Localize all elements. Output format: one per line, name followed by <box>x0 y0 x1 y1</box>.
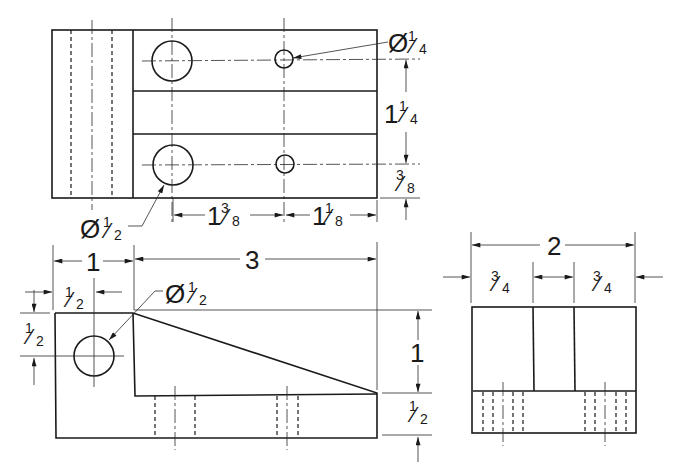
svg-text:2: 2 <box>199 292 207 308</box>
dim-base-height: 1 ⁄ 2 <box>407 398 428 427</box>
top-view: Ø 1 ⁄ 4 1 1 ⁄ 4 3 ⁄ 8 Ø 1 ⁄ 2 <box>52 18 427 244</box>
leader-front-hole <box>109 291 163 340</box>
leader-small-hole <box>293 42 388 58</box>
dim-hole-edge-offset: 3 ⁄ 8 <box>394 167 415 196</box>
diameter-symbol: Ø <box>388 28 408 58</box>
dim-front-hole: Ø 1 ⁄ 2 <box>165 279 207 309</box>
top-view-outline <box>52 30 377 198</box>
dim-hole-x: 1 ⁄ 2 <box>63 284 84 312</box>
svg-text:2: 2 <box>36 333 44 349</box>
svg-text:Ø: Ø <box>165 279 185 309</box>
svg-text:4: 4 <box>502 280 510 296</box>
svg-text:4: 4 <box>410 111 418 127</box>
front-view: 1 3 1 ⁄ 2 1 ⁄ 2 Ø 1 ⁄ 2 1 <box>20 242 432 462</box>
svg-text:Ø: Ø <box>80 214 100 244</box>
technical-drawing: Ø 1 ⁄ 4 1 1 ⁄ 4 3 ⁄ 8 Ø 1 ⁄ 2 <box>0 0 682 475</box>
centerline <box>142 164 420 165</box>
small-hole-bottom <box>276 155 294 173</box>
dim-small-hole: Ø 1 ⁄ 4 <box>388 28 427 58</box>
svg-text:8: 8 <box>232 213 240 229</box>
svg-text:1: 1 <box>384 99 398 129</box>
side-view: 2 3 ⁄ 4 3 ⁄ 4 <box>443 231 663 446</box>
svg-text:2: 2 <box>76 296 84 312</box>
dim-large-hole: Ø 1 ⁄ 2 <box>80 214 122 244</box>
front-view-outline <box>55 313 377 438</box>
side-view-outline <box>472 307 636 433</box>
svg-text:1: 1 <box>207 201 221 231</box>
svg-text:8: 8 <box>335 213 343 229</box>
dim-overall-width: 2 <box>547 231 561 261</box>
svg-text:2: 2 <box>114 227 122 243</box>
dim-base-width: 1 <box>86 247 100 277</box>
dim-right-flange: 3 ⁄ 4 <box>591 268 612 296</box>
centerline <box>142 59 420 61</box>
dim-left-flange: 3 ⁄ 4 <box>489 268 510 296</box>
dim-hole-spacing: 1 1 ⁄ 4 <box>384 98 418 129</box>
svg-text:8: 8 <box>407 180 415 196</box>
dim-overall-length: 3 <box>245 245 259 275</box>
svg-text:4: 4 <box>419 41 427 57</box>
dim-wedge-height: 1 <box>410 338 424 368</box>
dim-hole-x-from-step: 1 3 ⁄ 8 <box>207 200 240 231</box>
dim-hole-x-to-end: 1 1 ⁄ 8 <box>312 200 343 231</box>
svg-text:4: 4 <box>604 280 612 296</box>
svg-text:2: 2 <box>420 411 428 427</box>
dim-hole-y: 1 ⁄ 2 <box>23 320 44 349</box>
